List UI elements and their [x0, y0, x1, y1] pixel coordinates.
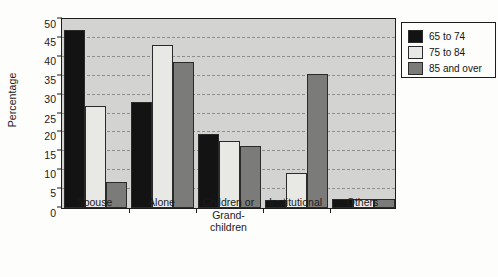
legend-swatch	[408, 46, 423, 59]
x-axis-label-line: children	[195, 221, 262, 234]
x-axis-label-line: Children or	[195, 196, 262, 209]
y-axis-tick-label: 35	[44, 74, 56, 75]
y-axis-tick-label: 40	[44, 55, 56, 56]
bar-65-to-74	[64, 30, 85, 208]
bar-85-and-over	[173, 62, 194, 208]
y-axis-tick-mark	[57, 36, 62, 37]
y-axis-tick-label: 5	[50, 188, 56, 189]
bar-group	[265, 19, 328, 208]
y-axis-tick-label: 45	[44, 36, 56, 37]
chart-container: Percentage 05101520253035404550 SpouseAl…	[0, 0, 498, 277]
legend-item: 75 to 84	[408, 44, 495, 60]
legend-item: 85 and over	[408, 60, 495, 76]
legend-label: 65 to 74	[429, 31, 465, 42]
x-axis-label: Children orGrand-children	[195, 196, 262, 234]
legend-swatch	[408, 62, 423, 75]
y-axis-tick-label: 0	[50, 207, 56, 208]
x-axis-label-line: Institutional	[262, 196, 329, 209]
legend-label: 85 and over	[429, 63, 482, 74]
x-axis-label-line: Alone	[128, 196, 195, 209]
x-axis-label: Alone	[128, 196, 195, 209]
y-axis-tick-mark	[57, 18, 62, 19]
y-axis-tick-mark	[57, 74, 62, 75]
bar-65-to-74	[131, 102, 152, 208]
bar-group	[198, 19, 261, 208]
x-axis-tick-mark	[263, 208, 264, 213]
bar-group	[64, 19, 127, 208]
y-axis-tick-mark	[57, 150, 62, 151]
bar-85-and-over	[307, 74, 328, 208]
y-axis-tick-mark	[57, 169, 62, 170]
y-axis-tick-label: 15	[44, 150, 56, 151]
legend-swatch	[408, 30, 423, 43]
x-axis-label-line: Spouse	[61, 196, 128, 209]
y-axis-tick-label: 10	[44, 169, 56, 170]
legend-label: 75 to 84	[429, 47, 465, 58]
y-axis-title: Percentage	[6, 58, 20, 142]
chart-legend: 65 to 7475 to 8485 and over	[401, 22, 496, 78]
x-axis-label-line: Others	[329, 196, 396, 209]
x-axis-tick-mark	[129, 208, 130, 213]
x-axis-label-line: Grand-	[195, 209, 262, 222]
y-axis-tick-mark	[57, 112, 62, 113]
y-axis-tick-label: 50	[44, 18, 56, 19]
x-axis-label: Institutional	[262, 196, 329, 209]
x-axis-label: Spouse	[61, 196, 128, 209]
y-axis-tick-label: 30	[44, 93, 56, 94]
plot-area: 05101520253035404550	[61, 18, 396, 209]
legend-item: 65 to 74	[408, 28, 495, 44]
y-axis-tick-mark	[57, 55, 62, 56]
bar-75-to-84	[85, 106, 106, 208]
x-axis-tick-mark	[330, 208, 331, 213]
bar-group	[131, 19, 194, 208]
x-axis-label: Others	[329, 196, 396, 209]
y-axis-tick-mark	[57, 188, 62, 189]
y-axis-tick-mark	[57, 131, 62, 132]
bar-75-to-84	[152, 45, 173, 208]
y-axis-tick-label: 25	[44, 112, 56, 113]
bar-group	[332, 19, 395, 208]
y-axis-tick-mark	[57, 93, 62, 94]
y-axis-tick-label: 20	[44, 131, 56, 132]
